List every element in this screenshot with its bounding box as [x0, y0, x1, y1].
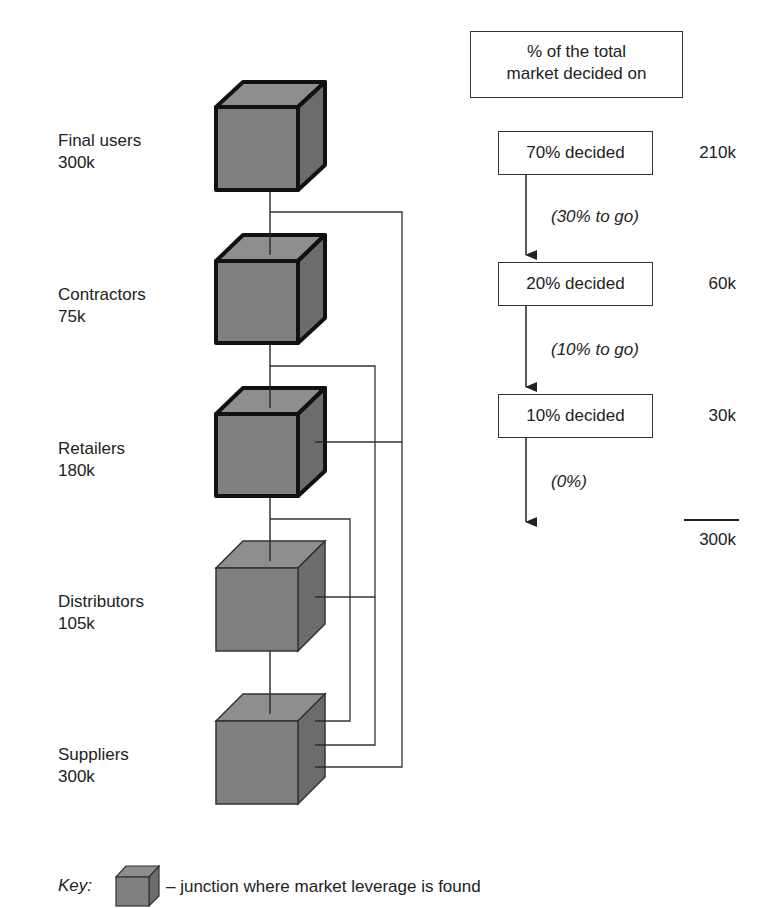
decision-box-20: 20% decided: [498, 262, 653, 306]
cube-final-users: [216, 82, 325, 190]
node-name: Distributors: [58, 591, 144, 613]
decision-value-30k: 30k: [676, 406, 736, 426]
header-line-2: market decided on: [471, 63, 682, 85]
node-name: Suppliers: [58, 744, 129, 766]
remaining-10: (10% to go): [551, 340, 639, 360]
node-label-final-users: Final users 300k: [58, 130, 141, 174]
node-value: 300k: [58, 766, 129, 788]
decision-box-10: 10% decided: [498, 394, 653, 438]
key-description: – junction where market leverage is foun…: [166, 876, 481, 898]
node-label-suppliers: Suppliers 300k: [58, 744, 129, 788]
decision-value-60k: 60k: [676, 274, 736, 294]
node-name: Final users: [58, 130, 141, 152]
header-line-1: % of the total: [471, 41, 682, 63]
header-box: % of the total market decided on: [470, 31, 683, 98]
node-label-distributors: Distributors 105k: [58, 591, 144, 635]
node-value: 105k: [58, 613, 144, 635]
node-name: Contractors: [58, 284, 146, 306]
remaining-0: (0%): [551, 472, 587, 492]
key-cube-icon: [116, 866, 159, 906]
decision-value-210k: 210k: [676, 143, 736, 163]
node-label-contractors: Contractors 75k: [58, 284, 146, 328]
node-label-retailers: Retailers 180k: [58, 438, 125, 482]
remaining-30: (30% to go): [551, 207, 639, 227]
total-value: 300k: [676, 530, 736, 550]
node-name: Retailers: [58, 438, 125, 460]
node-value: 75k: [58, 306, 146, 328]
node-value: 180k: [58, 460, 125, 482]
key-label: Key:: [58, 876, 92, 896]
node-value: 300k: [58, 152, 141, 174]
decision-box-70: 70% decided: [498, 131, 653, 175]
